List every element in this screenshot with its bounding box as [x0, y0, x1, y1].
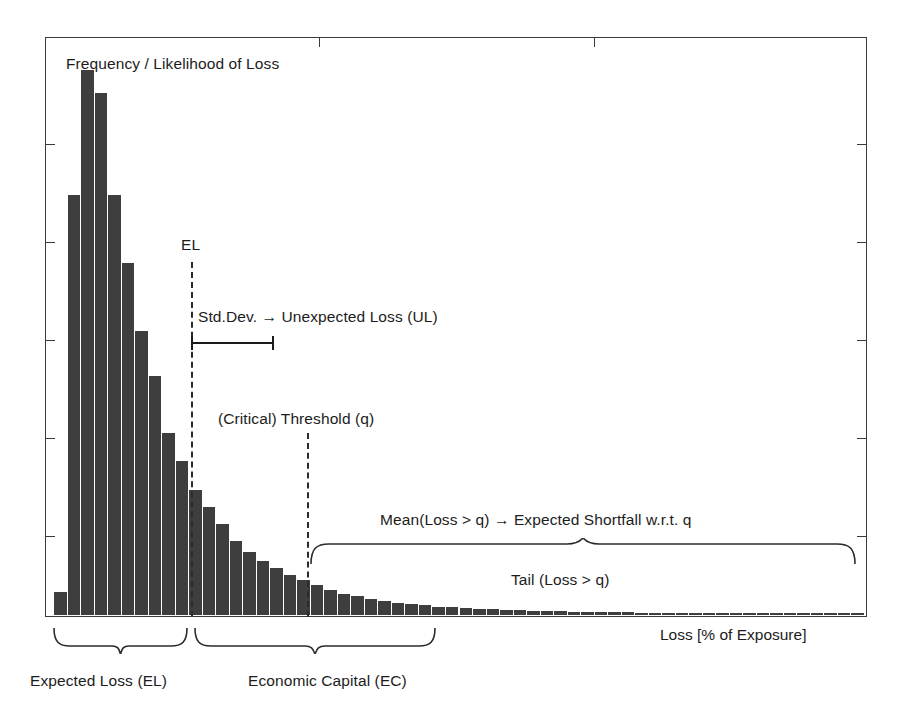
tail-brace-path	[309, 538, 857, 564]
histogram-bar	[378, 601, 392, 615]
expected-shortfall-label: Mean(Loss > q) → Expected Shortfall w.r.…	[380, 511, 692, 529]
histogram-bar	[541, 611, 555, 615]
plot-area: Frequency / Likelihood of Loss EL Std.De…	[45, 37, 867, 617]
histogram-bar	[95, 93, 109, 615]
x-axis-title: Loss [% of Exposure]	[660, 626, 806, 644]
histogram-bar	[81, 70, 95, 614]
histogram-bar	[270, 568, 284, 614]
expected-loss-brace	[52, 628, 189, 654]
economic-capital-brace-label: Economic Capital (EC)	[248, 672, 407, 690]
histogram-bar	[797, 613, 811, 614]
std-dev-range	[191, 336, 274, 350]
histogram-bar	[514, 610, 528, 614]
histogram-bar	[838, 613, 852, 614]
histogram-bar	[149, 376, 163, 614]
histogram-bar	[351, 596, 365, 614]
histogram-bar	[622, 612, 636, 614]
histogram-bar	[473, 609, 487, 615]
histogram-bar	[784, 613, 798, 614]
economic-capital-brace	[193, 628, 437, 654]
histogram-bar	[162, 433, 176, 614]
histogram-bar	[432, 607, 446, 615]
histogram-bar	[419, 605, 433, 614]
tail-label: Tail (Loss > q)	[511, 571, 609, 589]
histogram-bar	[770, 613, 784, 614]
histogram-bar	[635, 613, 649, 615]
threshold-label: (Critical) Threshold (q)	[218, 410, 374, 428]
histogram-bar	[689, 613, 703, 615]
std-dev-cap-left	[191, 336, 193, 350]
histogram-bar	[703, 613, 717, 614]
histogram-bar	[446, 607, 460, 614]
histogram-bar	[68, 195, 82, 615]
histogram-bar	[487, 609, 501, 614]
el-line	[191, 262, 193, 617]
tail-brace	[309, 538, 857, 564]
histogram-bar	[338, 594, 352, 615]
histogram-bar	[851, 613, 865, 614]
histogram-bar	[676, 613, 690, 615]
histogram-bar	[568, 612, 582, 615]
histogram-bar	[203, 507, 217, 615]
histogram-bar	[284, 575, 298, 615]
histogram-bar	[811, 613, 825, 614]
histogram-bar	[311, 585, 325, 614]
std-dev-cap-right	[272, 336, 274, 350]
histogram-bar	[176, 461, 190, 614]
histogram-bar	[554, 611, 568, 614]
threshold-line	[307, 433, 309, 617]
histogram-bar	[392, 603, 406, 615]
histogram-bar	[581, 612, 595, 615]
histogram-bars	[54, 48, 865, 615]
std-dev-label: Std.Dev. → Unexpected Loss (UL)	[198, 308, 438, 326]
histogram-bar	[135, 331, 149, 615]
histogram-bar	[730, 613, 744, 614]
histogram-bar	[662, 613, 676, 615]
histogram-bar	[54, 592, 68, 615]
histogram-bar	[757, 613, 771, 614]
expected-loss-brace-path	[52, 628, 189, 654]
std-dev-stem	[191, 342, 274, 344]
expected-loss-brace-label: Expected Loss (EL)	[30, 672, 167, 690]
histogram-bar	[365, 599, 379, 615]
histogram-bar	[608, 612, 622, 614]
histogram-bar	[216, 524, 230, 615]
histogram-bar	[716, 613, 730, 614]
histogram-bar	[243, 552, 257, 614]
x-axis-tick-top	[319, 38, 320, 47]
histogram-bar	[460, 608, 474, 614]
histogram-bar	[527, 611, 541, 615]
histogram-bar	[122, 263, 136, 615]
histogram-bar	[500, 610, 514, 615]
histogram-bar	[824, 613, 838, 614]
el-line-label: EL	[181, 236, 200, 254]
histogram-bar	[595, 612, 609, 614]
histogram-bar	[257, 561, 271, 615]
x-axis-tick-top	[594, 38, 595, 47]
histogram-bar	[743, 613, 757, 614]
histogram-bar	[324, 590, 338, 615]
histogram-bar	[230, 541, 244, 615]
histogram-bar	[108, 195, 122, 615]
histogram-bar	[649, 613, 663, 615]
loss-distribution-figure: Frequency / Likelihood of Loss EL Std.De…	[0, 0, 907, 717]
histogram-bar	[405, 604, 419, 614]
economic-capital-brace-path	[193, 628, 437, 654]
plot-inner-title: Frequency / Likelihood of Loss	[66, 55, 279, 73]
